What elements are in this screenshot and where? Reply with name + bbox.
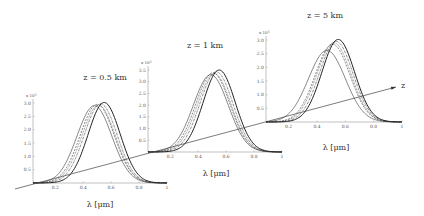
x-tick-label: 0.8 — [250, 154, 257, 159]
x-tick-label: 0.6 — [108, 185, 115, 190]
y-tick-label: 1.5 — [139, 114, 146, 119]
panel-title: z = 1 km — [187, 41, 223, 50]
x-tick-label: 1 — [281, 154, 284, 159]
y-tick-label: 0.5 — [24, 167, 31, 172]
y-tick-label: 2.0 — [257, 65, 264, 70]
y-tick-label: 1.5 — [257, 79, 264, 84]
x-tick-label: 0.2 — [285, 124, 292, 129]
y-tick-label: 3.0 — [257, 38, 264, 43]
panel-title: z = 0.5 km — [83, 73, 127, 82]
x-tick-label: 0.6 — [342, 124, 349, 129]
panel-title: z = 5 km — [307, 11, 343, 20]
y-tick-label: 0.5 — [257, 106, 264, 111]
y-tick-label: 0.5 — [139, 138, 146, 143]
x-tick-label: 1 — [166, 185, 169, 190]
x-tick-label: 0.8 — [135, 185, 142, 190]
y-tick-label: 1.0 — [257, 92, 264, 97]
spectra-figure: 0.20.40.60.810.51.01.52.02.53.0x 105z = … — [0, 0, 424, 216]
y-tick-label: 1.0 — [139, 126, 146, 131]
y-tick-label: 1.0 — [24, 154, 31, 159]
y-tick-label: 1.5 — [24, 141, 31, 146]
x-tick-label: 0.8 — [370, 124, 377, 129]
panels-group: 0.20.40.60.810.51.01.52.02.53.0x 105z = … — [19, 11, 406, 209]
x-tick-label: 1 — [401, 124, 404, 129]
y-tick-label: 2.0 — [139, 103, 146, 108]
y-tick-label: 3.5 — [139, 68, 146, 73]
y-tick-label: 3.0 — [139, 79, 146, 84]
x-tick-label: 0.6 — [223, 154, 230, 159]
y-tick-label: 3.0 — [24, 101, 31, 106]
x-axis-label: λ [μm] — [87, 200, 114, 209]
x-tick-label: 0.4 — [195, 154, 202, 159]
y-tick-label: 2.0 — [24, 127, 31, 132]
x-tick-label: 0.4 — [80, 185, 87, 190]
y-tick-label: 2.5 — [257, 51, 264, 56]
x-axis-label: λ [μm] — [203, 169, 230, 178]
x-tick-label: 0.2 — [167, 154, 174, 159]
x-tick-label: 0.4 — [313, 124, 320, 129]
z-axis-label: z — [401, 81, 405, 90]
x-tick-label: 0.2 — [52, 185, 59, 190]
x-axis-label: λ [μm] — [323, 143, 350, 152]
y-tick-label: 2.5 — [139, 91, 146, 96]
y-tick-label: 2.5 — [24, 114, 31, 119]
